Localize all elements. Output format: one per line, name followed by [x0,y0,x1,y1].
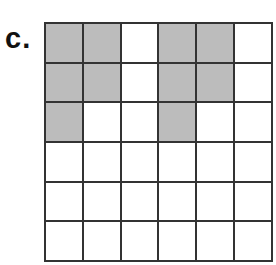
grid-cell-shaded [158,63,196,103]
grid-cell-shaded [45,63,83,103]
grid-cell [121,221,159,261]
grid-cell [234,142,272,182]
grid-cell [83,142,121,182]
grid-cell [45,182,83,222]
grid-cell-shaded [196,63,234,103]
grid-cell [83,182,121,222]
grid-cell [234,102,272,142]
grid-cell [158,221,196,261]
grid-cell [121,182,159,222]
grid-cell [196,182,234,222]
problem-label: c. [5,22,31,55]
grid-cell [234,23,272,63]
grid-cell-shaded [158,23,196,63]
grid-cell [83,221,121,261]
grid-cell [196,142,234,182]
grid-cell-shaded [196,23,234,63]
grid-cell-shaded [45,23,83,63]
grid-cell [45,142,83,182]
grid-cell [121,63,159,103]
shaded-grid [44,22,273,262]
grid-cell-shaded [83,63,121,103]
grid-cell [121,142,159,182]
grid-cell [196,221,234,261]
grid-cell-shaded [45,102,83,142]
grid-cell-shaded [83,23,121,63]
grid-cell [234,182,272,222]
grid-cell [234,221,272,261]
grid-cell [234,63,272,103]
grid-cell [196,102,234,142]
grid-cell-shaded [158,102,196,142]
grid-cell [158,142,196,182]
grid-cell [121,23,159,63]
grid-cell [83,102,121,142]
grid-cell [158,182,196,222]
grid-cell [121,102,159,142]
grid-cell [45,221,83,261]
